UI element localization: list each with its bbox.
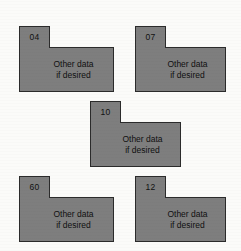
block-tag-label: 12 bbox=[146, 183, 156, 192]
block-body-text: Other data if desired bbox=[39, 59, 93, 81]
data-block-12: 12 Other data if desired bbox=[135, 176, 226, 242]
block-body-line-1: Other data bbox=[167, 209, 207, 220]
block-body-text: Other data if desired bbox=[108, 134, 162, 156]
block-tab-12: 12 bbox=[135, 176, 166, 198]
block-body-line-2: if desired bbox=[53, 70, 93, 81]
block-tab-10: 10 bbox=[90, 101, 121, 123]
block-tab-60: 60 bbox=[19, 176, 50, 198]
block-body-line-1: Other data bbox=[122, 134, 162, 145]
block-body-text: Other data if desired bbox=[153, 209, 207, 231]
block-tag-label: 60 bbox=[30, 183, 40, 192]
block-tag-label: 10 bbox=[101, 108, 111, 117]
block-body-04: Other data if desired bbox=[19, 47, 114, 92]
block-body-line-1: Other data bbox=[53, 59, 93, 70]
block-body-line-2: if desired bbox=[122, 145, 162, 156]
block-tab-04: 04 bbox=[19, 26, 50, 48]
block-body-line-2: if desired bbox=[167, 70, 207, 81]
data-block-10: 10 Other data if desired bbox=[90, 101, 181, 167]
block-tag-label: 07 bbox=[146, 33, 156, 42]
block-tab-07: 07 bbox=[135, 26, 166, 48]
block-body-07: Other data if desired bbox=[135, 47, 226, 92]
block-body-text: Other data if desired bbox=[153, 59, 207, 81]
block-body-line-2: if desired bbox=[53, 220, 93, 231]
data-block-04: 04 Other data if desired bbox=[19, 26, 114, 92]
block-body-10: Other data if desired bbox=[90, 122, 181, 167]
block-body-line-1: Other data bbox=[167, 59, 207, 70]
diagram-canvas: 04 Other data if desired 07 Other data i… bbox=[0, 0, 241, 251]
block-body-line-1: Other data bbox=[53, 209, 93, 220]
block-body-line-2: if desired bbox=[167, 220, 207, 231]
block-body-60: Other data if desired bbox=[19, 197, 114, 242]
data-block-60: 60 Other data if desired bbox=[19, 176, 114, 242]
data-block-07: 07 Other data if desired bbox=[135, 26, 226, 92]
block-body-text: Other data if desired bbox=[39, 209, 93, 231]
block-body-12: Other data if desired bbox=[135, 197, 226, 242]
block-tag-label: 04 bbox=[30, 33, 40, 42]
